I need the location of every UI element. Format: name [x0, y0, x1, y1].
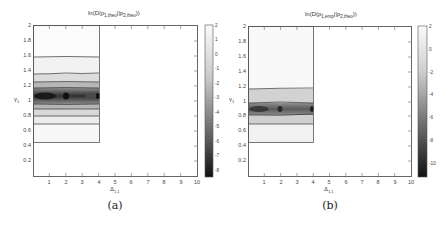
y-tick: 1.8: [228, 38, 246, 44]
colorbar-tick: 0: [429, 47, 432, 52]
x-tick: 8: [158, 179, 170, 185]
y-tick: 1.4: [13, 67, 31, 73]
colorbar-tick: 1: [215, 37, 218, 42]
y-tick: 2: [228, 23, 246, 29]
x-tick: 7: [356, 179, 368, 185]
x-tick: 7: [142, 179, 154, 185]
y-tick: 0.6: [228, 127, 246, 133]
x-tick: 3: [76, 179, 88, 185]
y-tick: 1.6: [228, 53, 246, 59]
x-tick: 2: [275, 179, 287, 185]
x-tick: 10: [191, 179, 203, 185]
x-axis-label-a: Δ1,1: [110, 186, 120, 194]
y-tick: 0.8: [228, 112, 246, 118]
x-tick: 5: [109, 179, 121, 185]
colorbar-tick: -10: [429, 161, 436, 166]
colorbar-tick: -5: [215, 124, 219, 129]
x-tick: 2: [60, 179, 72, 185]
y-tick: 1.8: [13, 37, 31, 43]
colorbar-tick: -1: [215, 66, 219, 71]
colorbar-tick: -7: [215, 153, 219, 158]
xlabel-sub: 1,1: [114, 189, 120, 194]
panel-a: ln(D(p1,theo||p2,theo)): [0, 0, 223, 226]
colorbar-tick: 2: [215, 23, 218, 28]
x-tick: 9: [175, 179, 187, 185]
colorbar-tick: -6: [429, 115, 433, 120]
x-axis-label-b: Δ1,1: [324, 186, 334, 194]
colorbar-tick: -6: [215, 139, 219, 144]
y-tick: 0.4: [228, 142, 246, 148]
y-tick: 1.6: [13, 52, 31, 58]
x-tick: 1: [258, 179, 270, 185]
x-tick: 10: [405, 179, 417, 185]
ylabel-sub: 1: [232, 99, 234, 104]
y-tick: 0.2: [13, 157, 31, 163]
y-tick: 1.4: [228, 68, 246, 74]
x-tick: 8: [372, 179, 384, 185]
xlabel-sub: 1,1: [328, 189, 334, 194]
y-tick: 0.2: [228, 157, 246, 163]
x-tick: 4: [307, 179, 319, 185]
ylabel-sub: 1: [17, 99, 19, 104]
y-tick: 0.8: [13, 112, 31, 118]
colorbar-tick: -2: [429, 70, 433, 75]
colorbar-tick: -4: [215, 110, 219, 115]
colorbar-tick: -2: [215, 81, 219, 86]
colorbar-tick: 0: [215, 52, 218, 57]
x-tick: 6: [340, 179, 352, 185]
colorbar-tick: -8: [429, 138, 433, 143]
panel-b: ln(D(p1,emp||p2,theo)): [223, 0, 446, 226]
y-tick: 1.2: [228, 83, 246, 89]
x-tick: 1: [43, 179, 55, 185]
caption-a: (a): [85, 199, 145, 212]
y-tick: 0.6: [13, 127, 31, 133]
y-tick: 2: [13, 22, 31, 28]
colorbar-tick: -3: [215, 95, 219, 100]
y-axis-label-b: γ1: [229, 96, 234, 104]
y-tick: 1.2: [13, 82, 31, 88]
x-tick: 9: [389, 179, 401, 185]
x-tick: 3: [291, 179, 303, 185]
colorbar-tick: -4: [429, 92, 433, 97]
caption-b: (b): [300, 199, 360, 212]
contour-plot-b: [223, 0, 446, 226]
x-tick: 5: [323, 179, 335, 185]
x-tick: 4: [93, 179, 105, 185]
colorbar-tick: 2: [429, 24, 432, 29]
x-tick: 6: [125, 179, 137, 185]
y-axis-label-a: γ1: [14, 96, 19, 104]
colorbar-tick: -8: [215, 168, 219, 173]
y-tick: 0.4: [13, 142, 31, 148]
